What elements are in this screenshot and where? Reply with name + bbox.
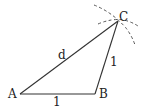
triangle-edges (20, 21, 118, 94)
vertex-label-B: B (99, 87, 108, 101)
edge-label-AC: d (58, 48, 66, 62)
triangle-construction-diagram: A B C 1 1 d (0, 0, 143, 109)
edge-label-AB: 1 (53, 95, 61, 109)
vertex-label-A: A (7, 87, 17, 101)
vertex-label-C: C (119, 10, 128, 24)
edge-AC (20, 21, 118, 94)
construction-arcs (94, 5, 138, 45)
arc-centered-A (94, 5, 135, 45)
edge-label-BC: 1 (110, 55, 118, 69)
